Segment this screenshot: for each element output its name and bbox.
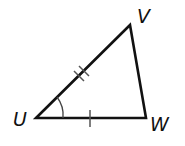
vertex-label-u: U xyxy=(13,108,27,130)
triangle-diagram: U V W xyxy=(0,0,185,146)
vertex-label-v: V xyxy=(137,5,152,27)
angle-arc-u xyxy=(57,97,63,118)
triangle-uvw xyxy=(36,25,146,118)
vertex-label-w: W xyxy=(150,113,170,135)
